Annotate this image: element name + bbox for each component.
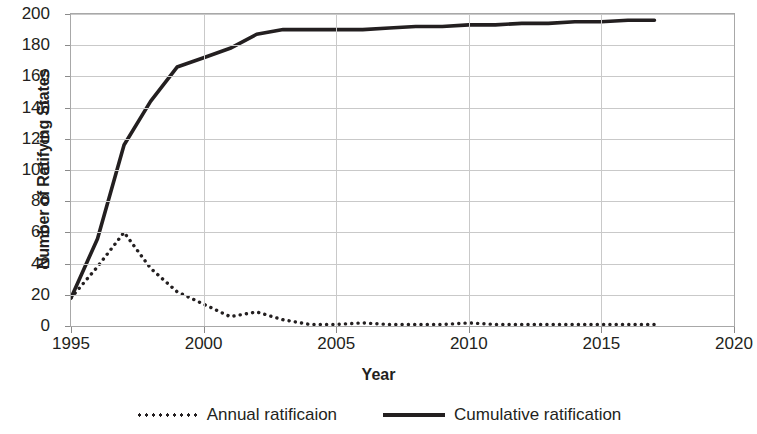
ratification-line-chart: Number of Ratifying States 0204060801001… [0, 0, 757, 434]
x-axis-tick-mark [469, 327, 470, 333]
x-axis-tick-mark [601, 327, 602, 333]
legend-entry-annual: Annual ratificaion [136, 405, 337, 425]
dotted-line-swatch-icon [136, 413, 198, 417]
gridline-horizontal [71, 170, 734, 171]
gridline-horizontal [71, 108, 734, 109]
gridline-horizontal [71, 201, 734, 202]
gridline-horizontal [71, 264, 734, 265]
x-axis-tick-label: 2010 [450, 334, 488, 354]
x-axis-tick-label: 2020 [715, 334, 753, 354]
x-axis-tick-label: 1995 [52, 334, 90, 354]
gridline-horizontal [71, 139, 734, 140]
chart-legend: Annual ratificaion Cumulative ratificati… [0, 405, 757, 425]
series-line-cumulative [71, 20, 654, 298]
legend-entry-cumulative: Cumulative ratification [383, 405, 621, 425]
legend-label-annual: Annual ratificaion [207, 405, 337, 425]
gridline-horizontal [71, 45, 734, 46]
gridline-vertical [469, 14, 470, 326]
gridline-horizontal [71, 232, 734, 233]
plot-area [70, 13, 735, 327]
gridline-horizontal [71, 14, 734, 15]
gridline-horizontal [71, 76, 734, 77]
gridline-vertical [336, 14, 337, 326]
x-axis-tick-label: 2015 [582, 334, 620, 354]
gridline-horizontal [71, 295, 734, 296]
gridline-vertical [601, 14, 602, 326]
x-axis-tick-label: 2000 [185, 334, 223, 354]
series-line-annual [71, 232, 654, 324]
x-axis-tick-label: 2005 [317, 334, 355, 354]
gridline-vertical [204, 14, 205, 326]
solid-line-swatch-icon [383, 413, 445, 417]
legend-label-cumulative: Cumulative ratification [454, 405, 621, 425]
x-axis-tick-mark [204, 327, 205, 333]
x-axis-title: Year [0, 366, 757, 384]
x-axis-tick-mark [336, 327, 337, 333]
x-axis-tick-mark [734, 327, 735, 333]
x-axis-tick-mark [71, 327, 72, 333]
